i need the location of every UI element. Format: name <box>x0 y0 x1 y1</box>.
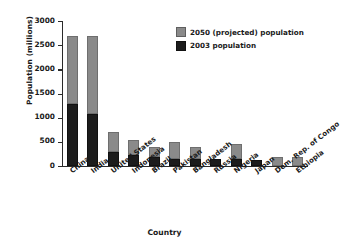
legend-swatch-2050-icon <box>176 27 186 37</box>
y-tick-label-2500: 2500 <box>34 40 55 49</box>
y-tick-label-500: 500 <box>40 136 55 145</box>
y-tick-0: 0 <box>58 166 62 167</box>
y-tick-label-3000: 3000 <box>34 16 55 25</box>
x-axis-tick-labels: ChinaIndiaUnited StatesIndonesiaBrazilPa… <box>62 168 308 224</box>
legend-label-2050: 2050 (projected) population <box>190 28 304 37</box>
bar-group[interactable] <box>67 36 78 166</box>
y-tick-label-1000: 1000 <box>34 112 55 121</box>
chart-legend: 2050 (projected) population 2003 populat… <box>176 27 304 54</box>
bar-segment-2003[interactable] <box>67 104 78 166</box>
bar-segment-2050[interactable] <box>108 132 119 152</box>
bar-segment-2050[interactable] <box>87 36 98 115</box>
bar-segment-2050[interactable] <box>67 36 78 103</box>
legend-item-2003: 2003 population <box>176 41 304 51</box>
legend-swatch-2003-icon <box>176 41 186 51</box>
bar-group[interactable] <box>87 36 98 167</box>
legend-label-2003: 2003 population <box>190 41 256 50</box>
legend-item-2050: 2050 (projected) population <box>176 27 304 37</box>
y-axis-title: Population (millions) <box>25 1 34 121</box>
bar-segment-2050[interactable] <box>169 142 180 159</box>
x-axis-title: Country <box>0 228 329 237</box>
y-tick-label-1500: 1500 <box>34 88 55 97</box>
y-tick-label-0: 0 <box>50 161 55 170</box>
y-tick-label-2000: 2000 <box>34 64 55 73</box>
